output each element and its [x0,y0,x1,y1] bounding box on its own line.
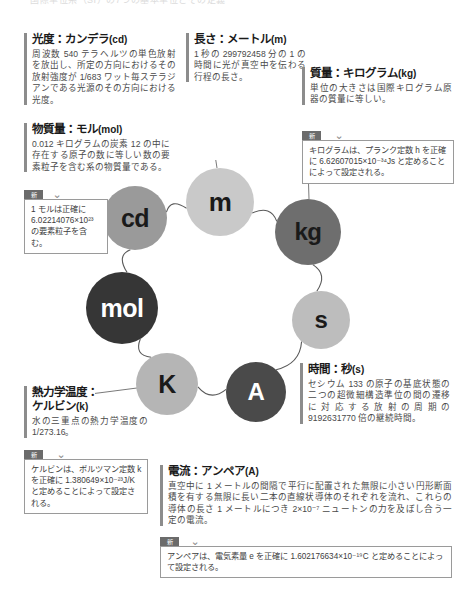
unit-node-label: kg [294,218,321,246]
accent-bar [24,33,27,105]
block-title-text: 物質量：モル [32,123,98,135]
info-block-mole: 物質量：モル(mol) 0.012 キログラムの炭素 12 の中に存在する原子の… [24,122,170,173]
diagram-link [122,250,130,273]
leader-line [213,160,217,168]
block-unit-symbol: (cd) [109,34,127,45]
info-block-candela: 光度：カンデラ(cd) 周波数 540 テラヘルツの単色放射を放出し、所定の方向… [24,32,176,106]
accent-bar [24,386,27,438]
callout-text: ケルビンは、ボルツマン定数 k を正確に 1.380649×10⁻²³J/K と… [24,459,148,514]
unit-node-label: A [248,378,265,406]
block-title: 物質量：モル(mol) [32,122,170,137]
block-title-text: 質量：キログラム [310,67,398,79]
block-title-text: 長さ：メートル [194,33,271,45]
callout-text: アンペアは、電気素量 e を正確に 1.602176634×10⁻¹⁹C と定め… [160,546,452,578]
block-unit-symbol: (A) [245,466,259,477]
diagram-link [252,210,277,221]
unit-node-m[interactable]: m [186,168,254,236]
top-headline: 国際単位系（SI）の7つの基本単位とその定義 [30,0,430,6]
accent-bar [24,123,27,172]
block-title-text: 熱力学温度： [32,386,98,398]
block-description: 真空中に 1 メートルの間隔で平行に配置された無限に小さい円形断面積を有する無限… [168,481,452,527]
block-unit-symbol: (k) [76,401,88,412]
unit-node-label: s [315,306,328,334]
info-block-kilogram: 質量：キログラム(kg) 単位の大きさは国際キログラム原器の質量に等しい。 [302,66,452,106]
unit-node-s[interactable]: s [292,291,350,349]
block-unit-symbol: (s) [352,364,364,375]
block-unit-symbol: (mol) [98,124,122,135]
new-badge: 新 [24,190,43,199]
diagram-link [276,342,302,370]
info-block-ampere: 電流：アンペア(A) 真空中に 1 メートルの間隔で平行に配置された無限に小さい… [160,464,452,527]
accent-bar [186,33,189,82]
unit-node-mol[interactable]: mol [86,272,158,344]
new-badge: 新 [160,537,179,546]
block-description: 単位の大きさは国際キログラム原器の質量に等しい。 [310,83,452,106]
block-description: セシウム 133 の原子の基底状態の二つの超微細構造準位の間の遷移に対応する放射… [308,379,450,425]
unit-node-cd[interactable]: cd [103,186,167,250]
block-description: 水の三重点の熱力学温度の 1/273.16。 [32,416,148,439]
unit-node-label: mol [101,294,144,323]
si-units-infographic: 国際単位系（SI）の7つの基本単位とその定義 m kg s A K mol cd… [0,0,460,598]
block-title-line2: ケルビン(k) [32,399,148,414]
info-block-metre: 長さ：メートル(m) 1 秒の 299792458 分の 1 の時間に光が真空中… [186,32,306,83]
callout-text: 1 モルは正確に 6.02214076×10²³ の要素粒子を含む。 [24,199,108,254]
block-title-text: ケルビン [32,400,76,412]
unit-node-kg[interactable]: kg [275,199,341,265]
block-title: 熱力学温度： [32,385,148,399]
accent-bar [160,465,163,526]
diagram-link [139,339,152,357]
block-title: 質量：キログラム(kg) [310,66,452,81]
block-title-text: 光度：カンデラ [32,33,109,45]
block-description: 周波数 540 テラヘルツの単色放射を放出し、所定の方向におけるその放射強度が … [32,49,176,106]
diagram-link [166,204,186,212]
info-block-second: 時間：秒(s) セシウム 133 の原子の基底状態の二つの超微細構造準位の間の遷… [300,362,450,425]
block-title-text: 電流：アンペア [168,465,245,477]
block-description: 1 秒の 299792458 分の 1 の時間に光が真空中を伝わる行程の長さ。 [194,49,306,83]
block-title: 電流：アンペア(A) [168,464,452,479]
accent-bar [300,363,303,424]
diagram-link [198,387,226,395]
block-title: 長さ：メートル(m) [194,32,306,47]
block-unit-symbol: (m) [271,34,287,45]
unit-node-label: m [209,187,232,218]
block-title: 時間：秒(s) [308,362,450,377]
new-badge: 新 [24,450,43,459]
block-title: 光度：カンデラ(cd) [32,32,176,47]
diagram-link [313,265,322,292]
unit-node-label: K [158,370,176,399]
unit-node-a[interactable]: A [226,362,286,422]
block-unit-symbol: (kg) [398,68,416,79]
unit-node-label: cd [121,204,149,233]
new-badge: 新 [302,131,321,140]
accent-bar [302,67,305,105]
callout-text: キログラムは、プランク定数 h を正確に 6.62607015×10⁻³⁴Js … [302,140,454,184]
block-description: 0.012 キログラムの炭素 12 の中に存在する原子の数に等しい数の要素粒子を… [32,139,170,173]
info-block-kelvin: 熱力学温度： ケルビン(k) 水の三重点の熱力学温度の 1/273.16。 [24,385,148,439]
block-title-text: 時間：秒 [308,363,352,375]
